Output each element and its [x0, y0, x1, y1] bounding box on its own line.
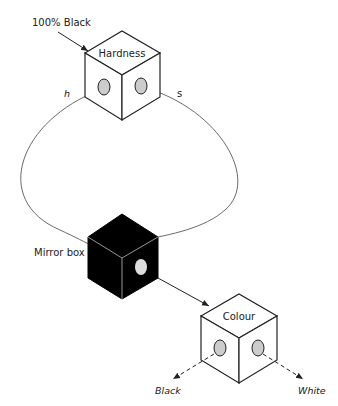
- diagram-canvas: 100% Black Hardness h s Mirror box Colou…: [0, 0, 338, 406]
- black-output-label: Black: [155, 385, 181, 396]
- black-output-arrow: [173, 354, 214, 379]
- white-output-arrow: [263, 354, 303, 379]
- s-label: s: [177, 88, 182, 99]
- h-port-icon: [98, 79, 110, 95]
- input-label: 100% Black: [32, 17, 91, 28]
- h-connector: [21, 90, 100, 248]
- white-output-label: White: [298, 385, 326, 396]
- black-port-icon: [214, 340, 226, 356]
- hardness-box: Hardness: [85, 31, 160, 120]
- input-arrow: [58, 32, 88, 51]
- s-connector: [142, 88, 238, 240]
- mirror-label: Mirror box: [34, 247, 85, 258]
- colour-box: Colour: [201, 294, 277, 383]
- mirror-to-colour-arrow: [158, 278, 209, 306]
- s-port-icon: [135, 78, 147, 94]
- mirror-box: [88, 214, 158, 299]
- colour-label: Colour: [223, 311, 256, 322]
- h-label: h: [64, 88, 70, 99]
- hardness-label: Hardness: [99, 48, 146, 59]
- mirror-port-icon: [135, 259, 147, 275]
- white-port-icon: [252, 340, 264, 356]
